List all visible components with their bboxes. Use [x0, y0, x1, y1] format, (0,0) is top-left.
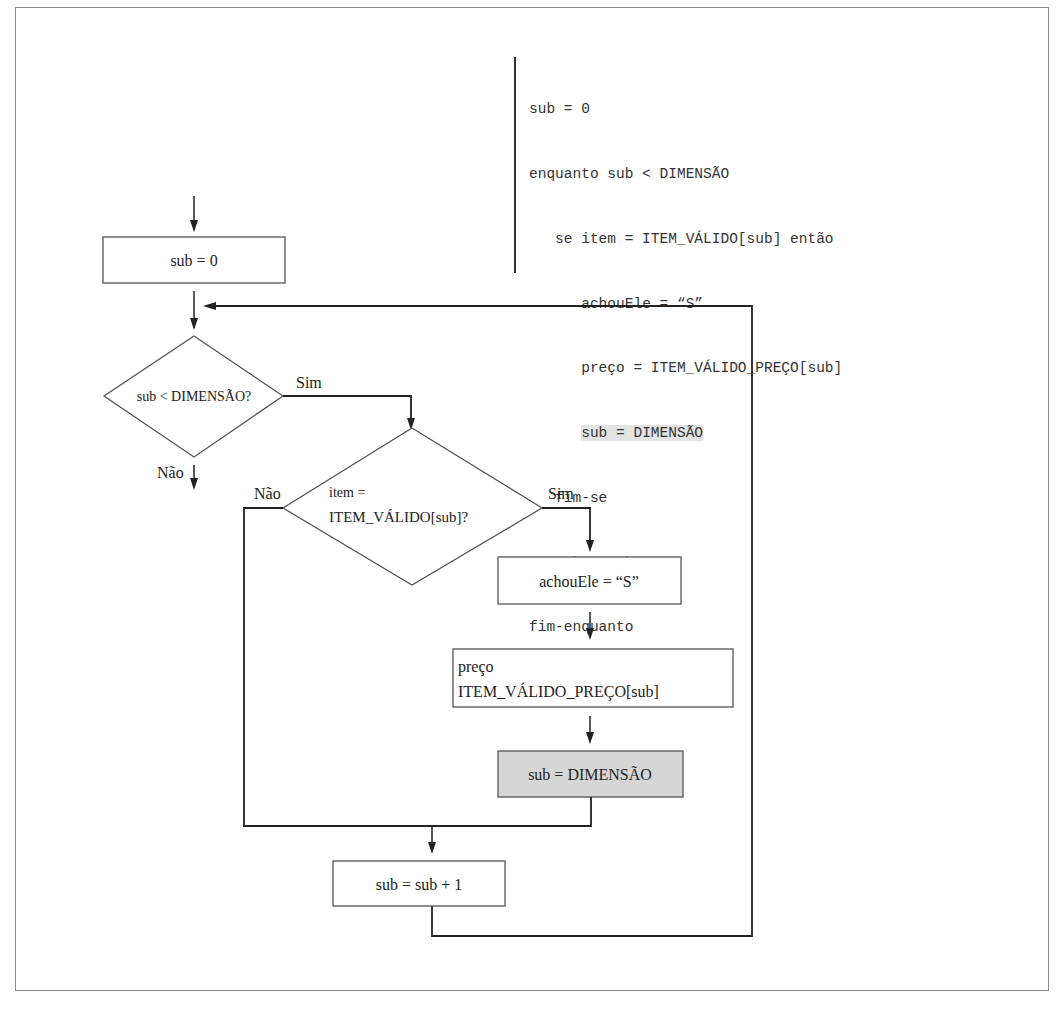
item-yes-branch: Sim	[542, 485, 594, 552]
svg-text:preço: preço	[458, 658, 494, 676]
increment-box: sub = sub + 1	[333, 861, 505, 906]
svg-text:Sim: Sim	[548, 485, 574, 502]
svg-text:sub = 0: sub = 0	[170, 252, 217, 269]
svg-text:Não: Não	[157, 464, 184, 481]
loop-no-branch: Não	[157, 464, 198, 490]
merge-line	[428, 797, 591, 854]
entry-arrow	[190, 196, 198, 232]
svg-text:sub = sub + 1: sub = sub + 1	[376, 876, 463, 893]
svg-text:sub < DIMENSÃO?: sub < DIMENSÃO?	[137, 389, 251, 404]
svg-text:ITEM_VÁLIDO_PREÇO[sub]: ITEM_VÁLIDO_PREÇO[sub]	[458, 682, 659, 701]
svg-text:item =: item =	[329, 485, 365, 500]
loop-back-line	[203, 302, 752, 936]
init-box: sub = 0	[103, 237, 285, 283]
arrow-found-to-price	[586, 612, 594, 640]
svg-text:Não: Não	[254, 485, 281, 502]
arrow-init-to-loop	[190, 291, 198, 330]
svg-text:Sim: Sim	[296, 374, 322, 391]
price-box: preço ITEM_VÁLIDO_PREÇO[sub]	[453, 649, 733, 707]
svg-text:sub = DIMENSÃO: sub = DIMENSÃO	[528, 766, 652, 783]
exit-box-highlighted: sub = DIMENSÃO	[498, 751, 683, 797]
loop-yes-branch: Sim	[283, 374, 415, 430]
found-box: achouEle = “S”	[498, 557, 681, 604]
flowchart: sub = 0 sub < DIMENSÃO? Sim Não item = I…	[0, 0, 1062, 1010]
svg-text:achouEle = “S”: achouEle = “S”	[539, 573, 639, 590]
svg-text:ITEM_VÁLIDO[sub]?: ITEM_VÁLIDO[sub]?	[329, 509, 468, 525]
arrow-price-to-exit	[586, 716, 594, 744]
loop-condition-diamond: sub < DIMENSÃO?	[104, 336, 283, 457]
